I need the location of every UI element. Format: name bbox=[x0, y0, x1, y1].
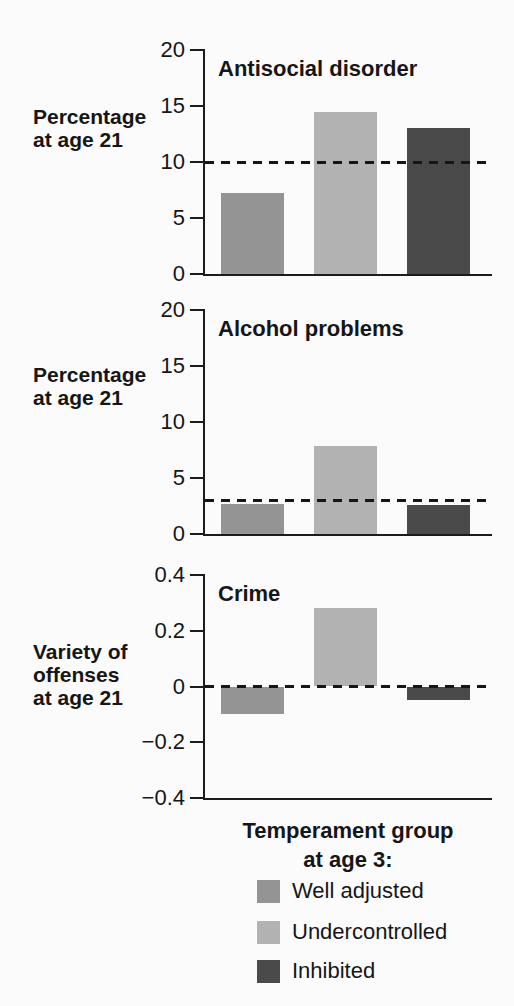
bar-undercontrolled bbox=[314, 608, 377, 686]
x-axis-title-line: Temperament group bbox=[203, 816, 493, 845]
y-tick-label: 0 bbox=[125, 675, 185, 699]
y-tick bbox=[190, 741, 205, 743]
reference-line bbox=[205, 161, 492, 164]
y-axis-label: Variety of offenses at age 21 bbox=[33, 640, 128, 709]
y-tick-label: 0 bbox=[125, 522, 185, 546]
legend-swatch-inhibited bbox=[257, 960, 280, 983]
bar-inhibited bbox=[407, 128, 470, 274]
y-tick-label: 15 bbox=[125, 94, 185, 118]
y-axis-label-line: at age 21 bbox=[33, 128, 146, 151]
y-tick-label: 0.4 bbox=[125, 563, 185, 587]
y-tick-label: 10 bbox=[125, 150, 185, 174]
y-tick bbox=[190, 574, 205, 576]
reference-line bbox=[205, 685, 492, 688]
y-tick bbox=[190, 797, 205, 799]
legend-item-inhibited: Inhibited bbox=[257, 959, 375, 983]
chart-crime: Variety of offenses at age 21 Crime −0.4… bbox=[0, 575, 514, 800]
figure-temperament-outcomes: Percentage at age 21 Antisocial disorder… bbox=[0, 0, 514, 1006]
plot-area: Alcohol problems 05101520 bbox=[203, 310, 492, 536]
y-tick bbox=[190, 477, 205, 479]
x-axis-title: Temperament group at age 3: bbox=[203, 816, 493, 874]
bar-undercontrolled bbox=[314, 446, 377, 534]
y-tick-label: −0.2 bbox=[125, 730, 185, 754]
y-tick-label: 20 bbox=[125, 38, 185, 62]
bar-undercontrolled bbox=[314, 112, 377, 274]
y-axis-label-line: at age 21 bbox=[33, 386, 146, 409]
y-tick bbox=[190, 630, 205, 632]
plot-area: Antisocial disorder 05101520 bbox=[203, 50, 492, 276]
y-tick-label: −0.4 bbox=[125, 786, 185, 810]
y-tick bbox=[190, 309, 205, 311]
bar-inhibited bbox=[407, 687, 470, 701]
legend-item-well-adjusted: Well adjusted bbox=[257, 879, 424, 903]
chart-antisocial-disorder: Percentage at age 21 Antisocial disorder… bbox=[0, 50, 514, 276]
y-axis-label-line: Variety of bbox=[33, 640, 128, 663]
y-tick bbox=[190, 217, 205, 219]
legend-swatch-well-adjusted bbox=[257, 880, 280, 903]
y-tick bbox=[190, 533, 205, 535]
y-tick-label: 0.2 bbox=[125, 619, 185, 643]
y-tick bbox=[190, 105, 205, 107]
y-tick bbox=[190, 49, 205, 51]
reference-line bbox=[205, 499, 492, 502]
y-tick-label: 5 bbox=[125, 466, 185, 490]
chart-title: Alcohol problems bbox=[218, 316, 404, 342]
plot-area: Crime −0.4−0.200.20.4 bbox=[203, 575, 492, 800]
y-tick bbox=[190, 421, 205, 423]
y-tick-label: 15 bbox=[125, 354, 185, 378]
bar-well-adjusted bbox=[221, 504, 284, 534]
y-tick bbox=[190, 365, 205, 367]
chart-title: Crime bbox=[218, 581, 280, 607]
legend-swatch-undercontrolled bbox=[257, 921, 280, 944]
y-tick-label: 10 bbox=[125, 410, 185, 434]
legend-label: Inhibited bbox=[292, 959, 375, 983]
y-axis-label-line: offenses bbox=[33, 663, 128, 686]
legend-item-undercontrolled: Undercontrolled bbox=[257, 920, 447, 944]
y-tick-label: 20 bbox=[125, 298, 185, 322]
y-tick bbox=[190, 161, 205, 163]
y-tick bbox=[190, 686, 205, 688]
x-axis-title-line: at age 3: bbox=[203, 845, 493, 874]
legend-label: Well adjusted bbox=[292, 879, 424, 903]
y-tick-label: 5 bbox=[125, 206, 185, 230]
y-axis-label-line: at age 21 bbox=[33, 686, 128, 709]
bar-well-adjusted bbox=[221, 687, 284, 715]
bar-well-adjusted bbox=[221, 193, 284, 274]
bar-inhibited bbox=[407, 505, 470, 534]
y-tick bbox=[190, 273, 205, 275]
y-tick-label: 0 bbox=[125, 262, 185, 286]
chart-title: Antisocial disorder bbox=[218, 56, 417, 82]
chart-alcohol-problems: Percentage at age 21 Alcohol problems 05… bbox=[0, 310, 514, 536]
legend-label: Undercontrolled bbox=[292, 920, 447, 944]
